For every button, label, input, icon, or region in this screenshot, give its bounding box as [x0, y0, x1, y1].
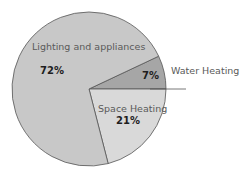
- water-heating-label: Water Heating: [171, 66, 239, 76]
- water-heating-percent: 7%: [142, 71, 159, 81]
- space-heating-label: Space Heating: [98, 104, 167, 114]
- pie-chart: [0, 0, 244, 180]
- space-heating-percent: 21%: [116, 116, 140, 126]
- lighting-appliances-label: Lighting and appliances: [32, 42, 145, 52]
- pie-slices: [12, 12, 166, 166]
- lighting-appliances-percent: 72%: [40, 66, 64, 76]
